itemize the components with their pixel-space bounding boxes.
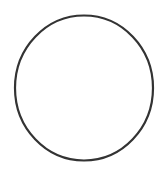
diagram-canvas (0, 0, 162, 170)
circle-shape (15, 16, 153, 161)
